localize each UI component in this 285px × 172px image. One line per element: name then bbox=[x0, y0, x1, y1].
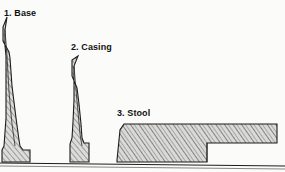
floor-reference-line bbox=[0, 163, 285, 166]
casing-molding-shape bbox=[70, 56, 89, 162]
label-stool: 3. Stool bbox=[117, 109, 150, 118]
molding-profiles-diagram: 1. Base 2. Casing 3. Stool bbox=[0, 0, 285, 172]
floor-reference-line-secondary bbox=[0, 166, 285, 169]
label-base: 1. Base bbox=[4, 9, 36, 18]
base-molding-shape bbox=[2, 17, 30, 162]
profiles-svg-canvas bbox=[0, 0, 285, 172]
stool-molding-shape bbox=[117, 124, 277, 162]
label-casing: 2. Casing bbox=[71, 43, 112, 52]
